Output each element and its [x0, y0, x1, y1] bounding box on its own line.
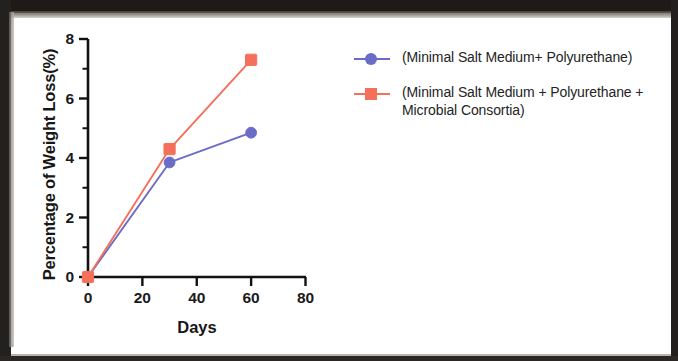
x-tick-label: 20: [125, 289, 159, 307]
circle-data-marker[interactable]: [246, 127, 257, 138]
square-data-marker[interactable]: [164, 143, 175, 154]
chart-page: 02468 020406080 Percentage of Weight Los…: [0, 0, 678, 361]
legend-item[interactable]: (Minimal Salt Medium + Polyurethane + Mi…: [352, 83, 664, 120]
x-axis-ticks: [88, 277, 306, 286]
y-axis-title: Percentage of Weight Loss(%): [40, 40, 59, 290]
y-axis-ticks: [79, 39, 88, 277]
x-tick-label: 60: [234, 289, 268, 307]
square-data-marker[interactable]: [82, 271, 93, 282]
chart-legend: (Minimal Salt Medium+ Polyurethane) (Min…: [352, 48, 664, 134]
x-tick-label: 40: [180, 289, 214, 307]
legend-item[interactable]: (Minimal Salt Medium+ Polyurethane): [352, 48, 664, 69]
circle-data-marker[interactable]: [164, 157, 175, 168]
legend-label-series-2: (Minimal Salt Medium + Polyurethane + Mi…: [402, 83, 664, 120]
circle-marker-icon: [365, 53, 377, 65]
square-marker-icon: [365, 88, 377, 100]
series-line: [88, 60, 251, 277]
x-tick-label: 80: [289, 289, 323, 307]
legend-label-series-1: (Minimal Salt Medium+ Polyurethane): [402, 48, 632, 66]
axis-lines: [88, 39, 306, 277]
x-axis-title: Days: [88, 318, 306, 337]
data-series-layer: [82, 54, 256, 282]
square-data-marker[interactable]: [246, 54, 257, 65]
x-tick-label: 0: [71, 289, 105, 307]
legend-key-series-1: [352, 49, 394, 69]
legend-key-series-2: [352, 84, 394, 104]
